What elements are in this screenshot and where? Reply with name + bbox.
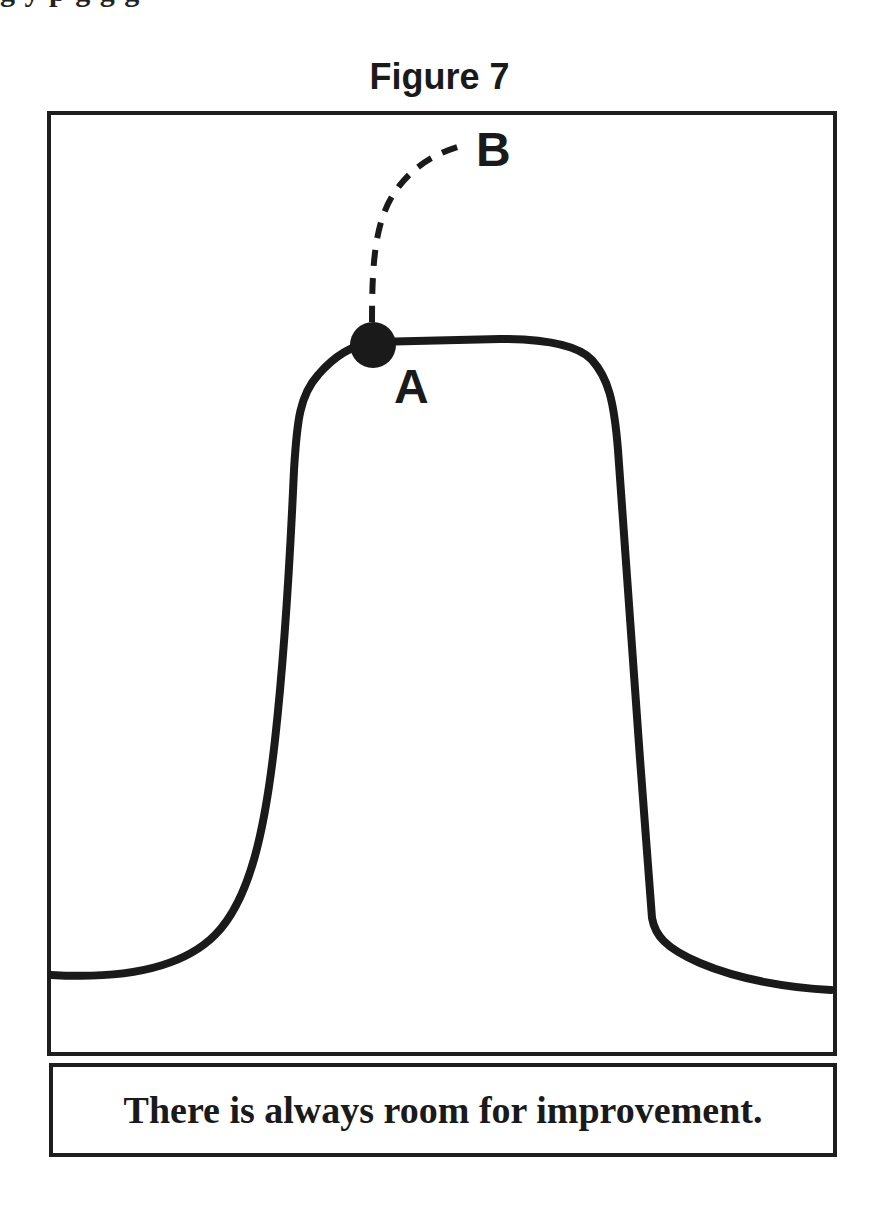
improvement-path-dashed [372, 144, 468, 322]
point-b-label: B [476, 123, 511, 176]
performance-curve [51, 339, 831, 990]
figure-diagram: A B [0, 0, 879, 1210]
caption-text: There is always room for improvement. [124, 1088, 763, 1132]
point-a-marker [350, 322, 396, 368]
point-a-label: A [394, 360, 429, 413]
caption-box: There is always room for improvement. [49, 1063, 837, 1157]
